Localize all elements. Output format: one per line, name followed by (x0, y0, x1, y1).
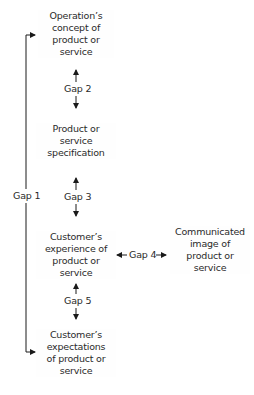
node-text-line: Customer’s (36, 231, 116, 243)
node-text-line: product or (38, 34, 114, 46)
node-text-line: service (36, 365, 116, 377)
node-text-line: Product or (36, 123, 116, 135)
node-text-line: service (36, 267, 116, 279)
gap3-label: Gap 3 (64, 191, 91, 203)
gap5-label: Gap 5 (64, 295, 91, 307)
node-text-line: experience of (36, 243, 116, 255)
node-customer-expectations: Customer’s expectations of product or se… (36, 329, 116, 377)
node-text-line: service (36, 135, 116, 147)
node-specification: Product or service specification (36, 123, 116, 159)
node-text-line: service (170, 262, 250, 274)
node-operation-concept: Operation’s concept of product or servic… (38, 10, 114, 58)
node-text-line: Communicated (170, 226, 250, 238)
gap2-label: Gap 2 (64, 83, 91, 95)
node-text-line: image of (170, 238, 250, 250)
gap1-label: Gap 1 (13, 190, 40, 202)
gap4-label: Gap 4 (129, 249, 156, 261)
node-text-line: specification (36, 147, 116, 159)
node-text-line: product or (170, 250, 250, 262)
node-text-line: concept of (38, 22, 114, 34)
node-text-line: expectations (36, 341, 116, 353)
node-text-line: Operation’s (38, 10, 114, 22)
node-text-line: product or (36, 255, 116, 267)
node-text-line: Customer’s (36, 329, 116, 341)
node-text-line: service (38, 46, 114, 58)
node-communicated-image: Communicated image of product or service (170, 226, 250, 274)
node-customer-experience: Customer’s experience of product or serv… (36, 231, 116, 279)
node-text-line: of product or (36, 353, 116, 365)
